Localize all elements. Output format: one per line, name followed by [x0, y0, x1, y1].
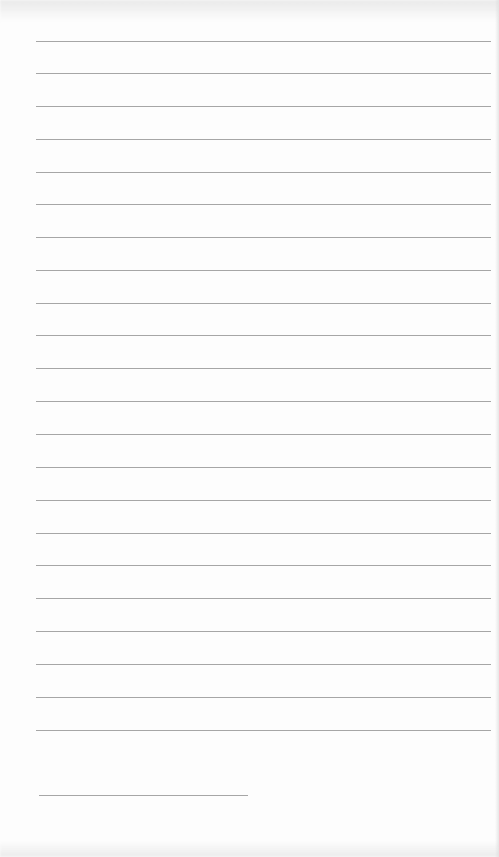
ruled-line — [36, 730, 491, 731]
ruled-line — [36, 533, 491, 534]
ruled-line — [36, 401, 491, 402]
ruled-line — [36, 73, 491, 74]
ruled-line — [36, 204, 491, 205]
ruled-line — [36, 500, 491, 501]
ruled-page — [0, 0, 499, 857]
ruled-line — [36, 237, 491, 238]
scan-bleed-through-bottom — [0, 841, 499, 857]
ruled-line — [36, 139, 491, 140]
ruled-line — [36, 697, 491, 698]
ruled-line — [36, 172, 491, 173]
ruled-line — [36, 565, 491, 566]
ruled-line — [36, 598, 491, 599]
ruled-line — [36, 41, 491, 42]
short-ruled-line — [39, 795, 248, 796]
scan-bleed-through-top — [0, 0, 499, 22]
ruled-line — [36, 270, 491, 271]
ruled-line — [36, 303, 491, 304]
page-edge-shadow — [495, 0, 499, 857]
ruled-line — [36, 368, 491, 369]
ruled-line — [36, 335, 491, 336]
ruled-line — [36, 434, 491, 435]
ruled-line — [36, 106, 491, 107]
ruled-line — [36, 467, 491, 468]
ruled-line — [36, 664, 491, 665]
ruled-line — [36, 631, 491, 632]
